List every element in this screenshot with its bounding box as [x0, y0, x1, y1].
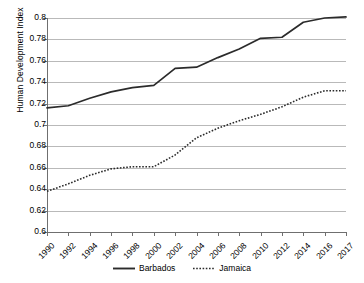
legend-swatch-solid-icon	[113, 264, 135, 273]
x-axis-tick-labels: 1990199219941996199820002002200420062008…	[0, 0, 364, 283]
legend-item-barbados[interactable]: Barbados	[113, 263, 175, 273]
legend-label: Jamaica	[219, 263, 251, 273]
hdi-line-chart: 0.80.780.760.740.720.70.680.660.640.620.…	[0, 0, 364, 283]
legend-label: Barbados	[139, 263, 175, 273]
legend-item-jamaica[interactable]: Jamaica	[193, 263, 251, 273]
chart-legend: BarbadosJamaica	[0, 263, 364, 273]
legend-swatch-dotted-icon	[193, 264, 215, 273]
